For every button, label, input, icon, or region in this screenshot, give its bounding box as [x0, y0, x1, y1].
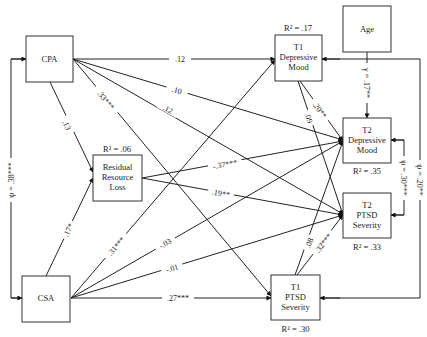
node-t2-depressive-mood: T2 Depressive Mood R² = .35	[343, 118, 391, 176]
r2-t2ptsd: R² = .33	[353, 242, 381, 252]
node-t1dep-line2: Depressive	[280, 52, 318, 62]
coef-cov-t1dep-t1ptsd: ψ = .20**	[415, 164, 424, 196]
coefficients: .12 .10 .12 .33*** .13 .17* .31*** -.03	[6, 54, 425, 303]
node-t2dep-line1: T2	[362, 125, 371, 135]
node-t1ptsd-line2: PTSD	[285, 292, 306, 302]
node-rrl-line2: Resource	[102, 172, 134, 182]
node-t1ptsd-line1: T1	[291, 282, 300, 292]
r2-t2dep: R² = .35	[353, 166, 381, 176]
coef-cpa-t1ptsd: .33***	[95, 89, 116, 112]
node-t1ptsd-line3: Severity	[281, 302, 310, 312]
node-t2dep-line2: Depressive	[348, 135, 386, 145]
node-t2-ptsd-severity: T2 PTSD Severity R² = .33	[343, 193, 391, 252]
node-t1-ptsd-severity: T1 PTSD Severity R² = .30	[271, 275, 320, 334]
coef-cov-cpa-csa: ψ = .38***	[7, 162, 16, 198]
node-t1dep-line3: Mood	[288, 62, 309, 72]
node-t1-depressive-mood: R² = .17 T1 Depressive Mood	[275, 23, 322, 81]
node-t2ptsd-line3: Severity	[353, 220, 382, 230]
coef-csa-t2ptsd: -.01	[165, 262, 180, 274]
node-rrl-line3: Loss	[109, 182, 125, 192]
coef-cpa-t1dep: .12	[175, 55, 185, 64]
coef-csa-t1dep: .31***	[106, 235, 127, 258]
node-csa: CSA	[22, 276, 70, 322]
node-rrl-line1: Residual	[103, 162, 133, 172]
node-t2ptsd-line1: T2	[362, 200, 371, 210]
node-cpa: CPA	[26, 36, 73, 82]
coef-rrl-t2ptsd: .19**	[211, 187, 230, 199]
r2-t1ptsd: R² = .30	[282, 324, 310, 334]
node-residual-resource-loss: R² = .06 Residual Resource Loss	[93, 144, 142, 201]
node-t2dep-line3: Mood	[357, 145, 378, 155]
node-age: Age	[343, 6, 391, 52]
path-rrl-t2dep	[142, 141, 343, 178]
coef-rrl-t2dep: -.37***	[212, 158, 238, 171]
node-t1dep-line1: T1	[294, 42, 303, 52]
coef-csa-t1ptsd: .27***	[167, 294, 189, 303]
coef-cov-t2dep-t2ptsd: ψ = .30***	[399, 160, 408, 196]
node-t2ptsd-line2: PTSD	[357, 210, 378, 220]
node-cpa-label: CPA	[42, 54, 59, 64]
node-csa-label: CSA	[38, 293, 55, 303]
r2-rrl: R² = .06	[103, 144, 131, 154]
path-diagram: .12 .10 .12 .33*** .13 .17* .31*** -.03	[0, 0, 427, 337]
r2-t1dep: R² = .17	[284, 23, 312, 33]
coef-t1ptsd-t2ptsd: .32***	[313, 232, 334, 255]
node-age-label: Age	[360, 24, 374, 34]
coef-age-t2dep: γ = .17**	[362, 67, 371, 98]
